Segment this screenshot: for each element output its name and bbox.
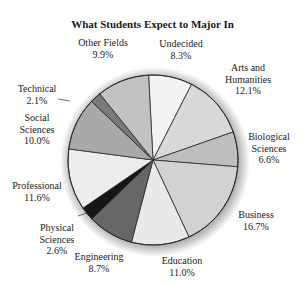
label-percent: 9.9% bbox=[78, 49, 128, 61]
label-text: Social bbox=[20, 112, 55, 124]
label-technical: Technical2.1% bbox=[18, 83, 57, 106]
label-percent: 2.6% bbox=[40, 245, 75, 257]
label-text: Engineering bbox=[75, 251, 124, 263]
label-percent: 11.6% bbox=[12, 192, 61, 204]
label-biological-sciences: BiologicalSciences6.6% bbox=[248, 131, 290, 166]
label-text: Education bbox=[162, 255, 203, 267]
label-text: Other Fields bbox=[78, 37, 128, 49]
label-text: Arts and bbox=[225, 62, 271, 74]
label-text: Sciences bbox=[40, 234, 75, 246]
label-text: Undecided bbox=[159, 38, 202, 50]
label-text: Physical bbox=[40, 222, 75, 234]
label-text: Technical bbox=[18, 83, 57, 95]
label-business: Business16.7% bbox=[238, 209, 274, 232]
label-text: Humanities bbox=[225, 74, 271, 86]
label-text: Sciences bbox=[20, 124, 55, 136]
label-education: Education11.0% bbox=[162, 255, 203, 278]
label-percent: 11.0% bbox=[162, 267, 203, 279]
label-text: Business bbox=[238, 209, 274, 221]
label-arts-and-humanities: Arts andHumanities12.1% bbox=[225, 62, 271, 97]
label-text: Sciences bbox=[248, 143, 290, 155]
label-percent: 8.7% bbox=[75, 263, 124, 275]
label-social-sciences: SocialSciences10.0% bbox=[20, 112, 55, 147]
label-other-fields: Other Fields9.9% bbox=[78, 37, 128, 60]
label-percent: 10.0% bbox=[20, 135, 55, 147]
label-percent: 2.1% bbox=[18, 95, 57, 107]
label-percent: 16.7% bbox=[238, 221, 274, 233]
label-professional: Professional11.6% bbox=[12, 180, 61, 203]
technical-leader-line bbox=[58, 99, 70, 101]
pie-slices bbox=[68, 75, 238, 245]
label-engineering: Engineering8.7% bbox=[75, 251, 124, 274]
label-text: Professional bbox=[12, 180, 61, 192]
label-text: Biological bbox=[248, 131, 290, 143]
label-undecided: Undecided8.3% bbox=[159, 38, 202, 61]
label-percent: 12.1% bbox=[225, 85, 271, 97]
label-percent: 8.3% bbox=[159, 50, 202, 62]
label-percent: 6.6% bbox=[248, 154, 290, 166]
label-physical-sciences: PhysicalSciences2.6% bbox=[40, 222, 75, 257]
